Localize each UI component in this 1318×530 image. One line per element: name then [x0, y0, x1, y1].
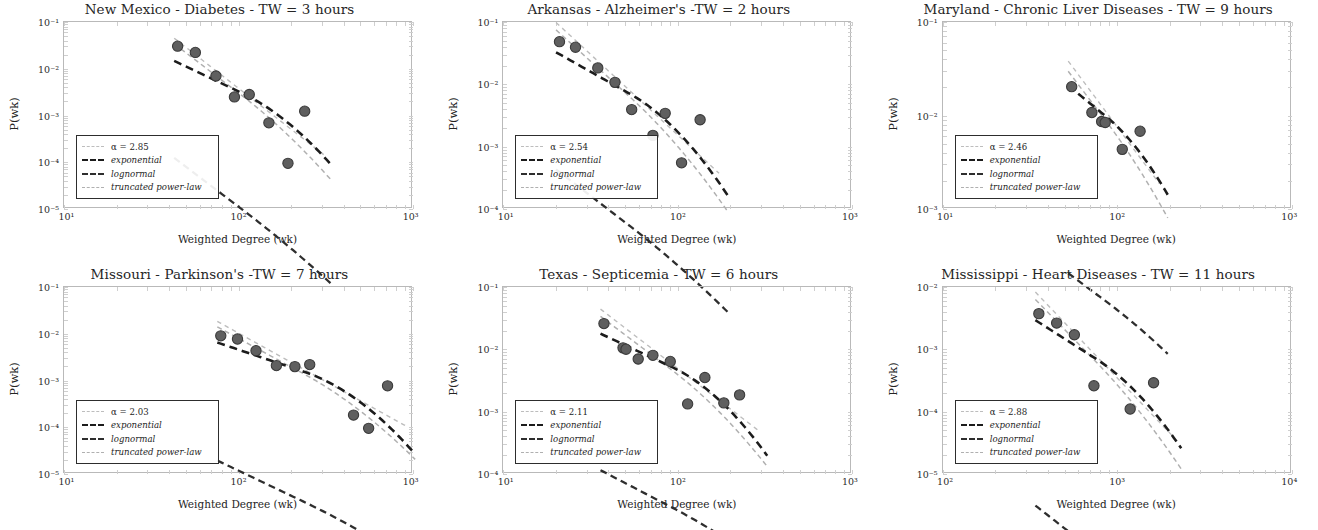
legend-lognormal[interactable]: lognormal [961, 167, 1090, 181]
y-tick-label: 10⁻³ [477, 141, 498, 152]
x-minor-tick [852, 22, 853, 26]
legend-label: truncated power-law [550, 447, 641, 457]
legend-label: exponential [990, 155, 1041, 165]
legend-lognormal[interactable]: lognormal [82, 167, 211, 181]
legend-label: α = 2.85 [111, 142, 149, 152]
data-point [290, 361, 300, 371]
data-point [665, 356, 675, 366]
y-minor-tick [943, 474, 947, 475]
x-minor-tick [413, 205, 414, 209]
x-axis-label: Weighted Degree (wk) [63, 498, 412, 510]
y-axis-label: P(wk) [446, 97, 460, 131]
y-tick-label: 10⁻³ [38, 375, 59, 386]
data-point [1069, 330, 1079, 340]
data-point [1066, 82, 1076, 92]
legend-label: exponential [111, 420, 162, 430]
legend-exponential[interactable]: exponential [961, 154, 1090, 168]
legend-power-law[interactable]: α = 2.46 [961, 140, 1090, 154]
data-point [1086, 107, 1096, 117]
legend-line-swatch [82, 173, 104, 175]
x-minor-tick [852, 470, 853, 474]
data-point [305, 359, 315, 369]
legend-line-swatch [961, 411, 983, 412]
data-point [190, 47, 200, 57]
x-tick-label: 10² [231, 476, 247, 487]
legend-line-swatch [521, 438, 543, 440]
y-minor-tick [848, 209, 852, 210]
legend-truncated-power-law[interactable]: truncated power-law [961, 181, 1090, 195]
y-tick-label: 10⁻⁴ [38, 422, 59, 433]
legend-lognormal[interactable]: lognormal [82, 432, 211, 446]
x-tick-label: 10³ [1109, 476, 1125, 487]
legend-line-swatch [82, 424, 104, 426]
data-point [1135, 126, 1145, 136]
legend-power-law[interactable]: α = 2.85 [82, 140, 211, 154]
x-minor-tick [1292, 287, 1293, 291]
plot-area: 10⁻¹10⁻²10⁻³10⁻⁴10¹10²10³α = 2.11exponen… [502, 286, 851, 473]
x-tick-label: 10² [670, 211, 686, 222]
y-tick-label: 10⁻⁴ [917, 406, 938, 417]
legend-truncated-power-law[interactable]: truncated power-law [82, 446, 211, 460]
x-tick-label: 10³ [842, 476, 858, 487]
panel-new-mexico: New Mexico - Diabetes - TW = 3 hoursP(wk… [0, 0, 439, 265]
legend-line-swatch [521, 173, 543, 175]
data-point [229, 92, 239, 102]
legend-truncated-power-law[interactable]: truncated power-law [82, 181, 211, 195]
x-minor-tick [852, 287, 853, 291]
y-tick-label: 10⁻¹ [477, 17, 498, 28]
data-point [621, 344, 631, 354]
legend-truncated-power-law[interactable]: truncated power-law [961, 446, 1090, 460]
legend: α = 2.88exponentiallognormaltruncated po… [955, 400, 1098, 464]
legend-lognormal[interactable]: lognormal [521, 432, 650, 446]
lognormal-curve [217, 461, 415, 530]
panel-title: New Mexico - Diabetes - TW = 3 hours [0, 1, 439, 17]
panel-texas: Texas - Septicemia - TW = 6 hoursP(wk)We… [439, 265, 878, 530]
legend-line-swatch [521, 424, 543, 426]
y-tick-label: 10⁻⁵ [917, 469, 938, 480]
y-axis-label: P(wk) [446, 362, 460, 396]
y-tick-label: 10⁻⁵ [38, 204, 59, 215]
x-tick-label: 10² [670, 476, 686, 487]
legend-line-swatch [521, 159, 543, 161]
y-axis-label: P(wk) [886, 97, 900, 131]
y-axis-label: P(wk) [7, 362, 21, 396]
legend-lognormal[interactable]: lognormal [961, 432, 1090, 446]
legend-power-law[interactable]: α = 2.54 [521, 140, 650, 154]
legend-exponential[interactable]: exponential [521, 419, 650, 433]
y-tick-label: 10⁻³ [917, 344, 938, 355]
panel-maryland: Maryland - Chronic Liver Diseases - TW =… [879, 0, 1318, 265]
legend-label: exponential [990, 420, 1041, 430]
legend-exponential[interactable]: exponential [82, 419, 211, 433]
data-point [571, 42, 581, 52]
legend-label: truncated power-law [990, 447, 1081, 457]
data-point [627, 104, 637, 114]
x-tick-label: 10³ [1281, 211, 1297, 222]
data-point [633, 354, 643, 364]
y-minor-tick [409, 474, 413, 475]
legend-label: α = 2.11 [550, 407, 588, 417]
legend: α = 2.11exponentiallognormaltruncated po… [515, 400, 658, 464]
data-point [172, 41, 182, 51]
legend-line-swatch [961, 452, 983, 453]
data-point [1033, 308, 1043, 318]
legend-exponential[interactable]: exponential [521, 154, 650, 168]
legend-truncated-power-law[interactable]: truncated power-law [521, 446, 650, 460]
panel-title: Missouri - Parkinson's -TW = 7 hours [0, 266, 439, 282]
legend-label: α = 2.46 [990, 142, 1028, 152]
y-tick-label: 10⁻¹ [38, 282, 59, 293]
legend-line-swatch [521, 452, 543, 453]
legend-truncated-power-law[interactable]: truncated power-law [521, 181, 650, 195]
legend-label: exponential [111, 155, 162, 165]
legend: α = 2.03exponentiallognormaltruncated po… [76, 400, 219, 464]
x-minor-tick [413, 22, 414, 26]
legend-power-law[interactable]: α = 2.11 [521, 405, 650, 419]
legend-power-law[interactable]: α = 2.03 [82, 405, 211, 419]
legend-exponential[interactable]: exponential [961, 419, 1090, 433]
data-point [610, 77, 620, 87]
legend-power-law[interactable]: α = 2.88 [961, 405, 1090, 419]
legend-exponential[interactable]: exponential [82, 154, 211, 168]
y-minor-tick [409, 209, 413, 210]
legend-lognormal[interactable]: lognormal [521, 167, 650, 181]
panel-arkansas: Arkansas - Alzheimer's -TW = 2 hoursP(wk… [439, 0, 878, 265]
y-tick-label: 10⁻² [477, 344, 498, 355]
